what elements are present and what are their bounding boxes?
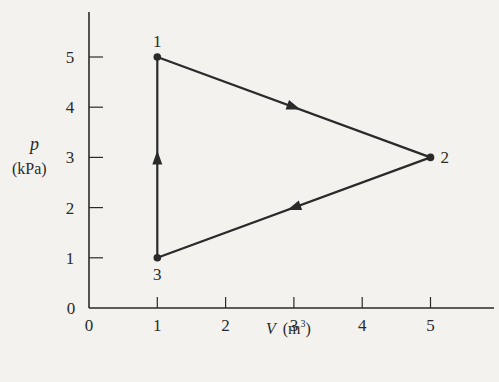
x-tick-label: 4 <box>358 316 367 335</box>
pv-diagram: 012345012345 123 p (kPa) V (m3) <box>0 0 499 382</box>
x-axis-label-var: V <box>266 320 278 337</box>
x-axis-label-close: ) <box>306 320 311 338</box>
y-axis-label-unit: (kPa) <box>12 160 47 178</box>
arrow-1-2 <box>286 100 301 110</box>
state-point-2 <box>427 154 435 162</box>
y-tick-label: 4 <box>66 98 75 117</box>
x-tick-label: 0 <box>85 316 94 335</box>
x-axis-label: V (m3) <box>266 318 311 338</box>
x-tick-label: 2 <box>221 316 230 335</box>
state-label-3: 3 <box>153 265 162 284</box>
x-tick-label: 5 <box>426 316 435 335</box>
x-axis-label-unit: (m <box>283 320 301 338</box>
y-tick-label: 0 <box>67 299 76 318</box>
y-tick-label: 5 <box>66 48 75 67</box>
y-tick-label: 1 <box>66 249 75 268</box>
state-label-2: 2 <box>441 148 450 167</box>
y-tick-label: 3 <box>66 148 75 167</box>
state-label-1: 1 <box>153 32 162 51</box>
arrow-2-3 <box>287 200 302 210</box>
y-axis-label-var: p <box>28 134 39 154</box>
y-tick-label: 2 <box>66 199 75 218</box>
arrow-3-1 <box>152 150 162 164</box>
state-point-1 <box>154 53 162 61</box>
state-point-3 <box>154 254 162 262</box>
x-tick-label: 1 <box>153 316 162 335</box>
